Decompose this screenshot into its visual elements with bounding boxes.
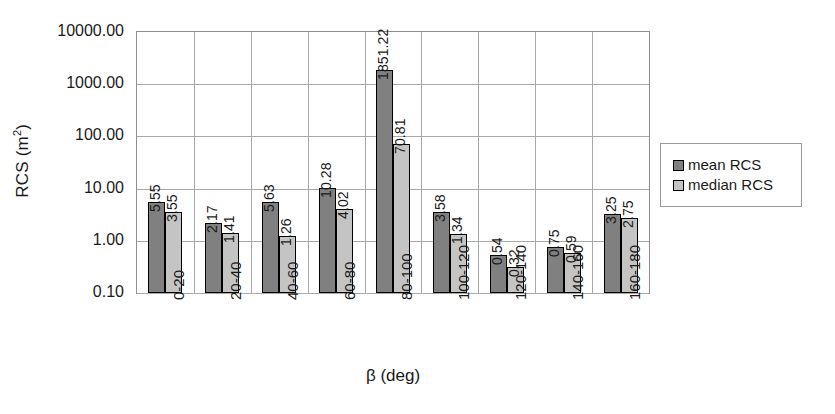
bar-value-label: 1851.22 [376, 29, 390, 80]
x-axis-tick-label: 100-120 [456, 245, 471, 300]
legend-swatch-icon [673, 160, 684, 171]
x-axis-tick-label: 160-180 [627, 245, 642, 300]
bar-value-label: 1.34 [450, 217, 464, 245]
bar-mean [433, 212, 450, 293]
y-axis-tick-label: 1.00 [0, 232, 124, 248]
bar-value-label: 1.41 [222, 215, 236, 243]
bar-value-label: 4.02 [336, 192, 350, 220]
x-axis-title: β (deg) [136, 366, 650, 386]
x-axis-tick-label: 20-40 [228, 262, 243, 300]
y-axis-tick-label: 10000.00 [0, 23, 124, 39]
bar-mean [205, 223, 222, 293]
bar-mean [262, 202, 279, 293]
y-axis-tick-labels: 0.101.0010.00100.001000.0010000.00 [0, 0, 130, 414]
x-axis-tick-label: 0-20 [171, 270, 186, 300]
y-axis-tick-label: 10.00 [0, 180, 124, 196]
bar-value-label: 2.17 [205, 206, 219, 234]
rcs-bar-chart: RCS (m2) 0.101.0010.00100.001000.0010000… [0, 0, 835, 414]
bar-value-label: 0.54 [490, 237, 504, 265]
x-axis-tick-label: 120-140 [513, 245, 528, 300]
x-axis-tick-label: 140-160 [570, 245, 585, 300]
bar-value-label: 3.58 [433, 194, 447, 222]
legend-item: median RCS [673, 177, 793, 193]
bar-value-label: 0.75 [547, 230, 561, 258]
bar-value-label: 1.26 [279, 218, 293, 246]
x-axis-tick-label: 40-60 [285, 262, 300, 300]
legend-item-label: mean RCS [688, 157, 761, 173]
y-axis-tick-label: 1000.00 [0, 75, 124, 91]
x-gridline [194, 32, 195, 293]
x-gridline [478, 32, 479, 293]
bar-value-label: 3.25 [604, 196, 618, 224]
bar-mean [319, 188, 336, 293]
legend-item: mean RCS [673, 157, 793, 173]
x-gridline [251, 32, 252, 293]
chart-legend: mean RCSmedian RCS [660, 143, 802, 207]
legend-item-label: median RCS [688, 177, 773, 193]
x-gridline [592, 32, 593, 293]
bar-value-label: 5.63 [262, 184, 276, 212]
x-axis-tick-label: 80-100 [399, 253, 414, 300]
x-axis-tick-label: 60-80 [342, 262, 357, 300]
bar-value-label: 70.81 [393, 119, 407, 155]
legend-swatch-icon [673, 180, 684, 191]
y-axis-tick-label: 0.10 [0, 284, 124, 300]
x-gridline [421, 32, 422, 293]
bar-value-label: 5.55 [148, 184, 162, 212]
y-axis-tick-label: 100.00 [0, 127, 124, 143]
bar-value-label: 3.55 [165, 194, 179, 222]
bar-value-label: 2.75 [621, 200, 635, 228]
x-gridline [365, 32, 366, 293]
bar-mean [148, 202, 165, 293]
y-gridline [137, 84, 649, 85]
x-gridline [308, 32, 309, 293]
bar-mean [604, 214, 621, 293]
bar-mean [376, 70, 393, 293]
bar-value-label: 10.28 [319, 162, 333, 198]
x-gridline [535, 32, 536, 293]
